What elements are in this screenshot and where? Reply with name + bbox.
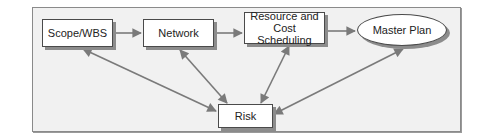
node-label: Scope/WBS [48,27,107,39]
arrow-resource-risk [261,46,289,103]
node-risk: Risk [218,104,273,128]
node-network: Network [143,19,214,47]
node-label: Risk [235,110,256,122]
arrow-master-risk [274,49,403,114]
node-label: Master Plan [373,24,432,36]
arrow-network-risk [180,50,227,103]
node-label: Network [158,27,198,39]
arrow-scope-risk [83,49,216,111]
node-resource-cost-scheduling: Resource and Cost Scheduling [244,12,325,44]
node-scope-wbs: Scope/WBS [42,19,113,47]
node-label-line2: Scheduling [257,34,311,46]
node-label-line1: Resource and Cost [245,10,324,34]
node-master-plan: Master Plan [357,14,447,46]
